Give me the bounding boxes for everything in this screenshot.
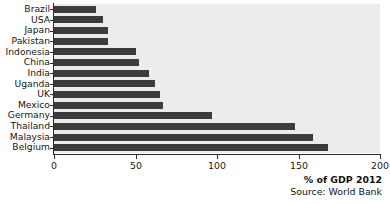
x-axis-tick bbox=[217, 155, 218, 159]
x-axis-tick-label: 0 bbox=[24, 160, 84, 172]
caption-block: % of GDP 2012 Source: World Bank bbox=[290, 174, 382, 198]
x-axis-tick bbox=[299, 155, 300, 159]
x-axis-tick bbox=[54, 155, 55, 159]
x-axis-tick bbox=[136, 155, 137, 159]
x-axis-tick-label: 200 bbox=[350, 160, 390, 172]
source-label: Source: World Bank bbox=[290, 186, 382, 198]
x-axis-tick bbox=[380, 155, 381, 159]
x-axis-tick-label: 150 bbox=[269, 160, 329, 172]
bar-chart: BrazilUSAJapanPakistanIndonesiaChinaIndi… bbox=[0, 0, 390, 204]
x-axis-tick-label: 50 bbox=[106, 160, 166, 172]
x-axis-label: % of GDP 2012 bbox=[290, 174, 382, 186]
x-axis-tick-label: 100 bbox=[187, 160, 247, 172]
